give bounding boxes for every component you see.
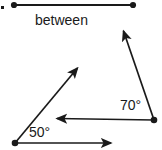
- right-angle-horizontal-ray: [57, 119, 154, 121]
- geometry-figure: between 70° 50°: [0, 0, 162, 150]
- left-vertex-dot: [12, 140, 19, 147]
- between-label: between: [35, 13, 88, 27]
- top-segment-right-endpoint-dot: [130, 2, 136, 8]
- angle-label-50: 50°: [29, 125, 50, 139]
- right-vertex-dot: [151, 117, 158, 124]
- angle-label-70: 70°: [120, 98, 141, 112]
- top-segment-left-endpoint-dot: [11, 2, 17, 8]
